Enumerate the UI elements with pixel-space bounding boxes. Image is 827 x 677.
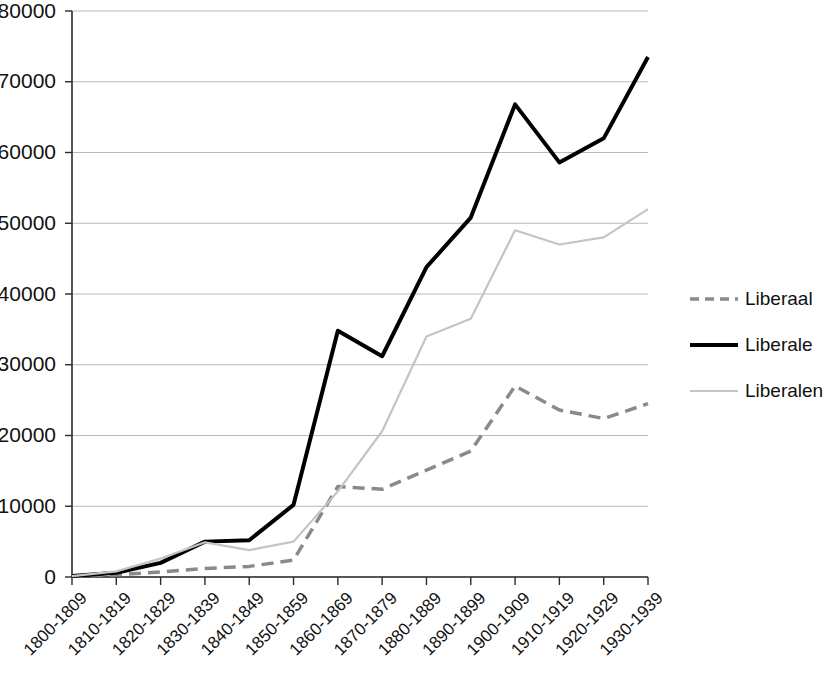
y-axis-tick-label: 70000	[0, 69, 56, 92]
y-axis-tick-label: 60000	[0, 140, 56, 163]
y-axis-tick-label: 10000	[0, 494, 56, 517]
legend-label-liberaal: Liberaal	[745, 288, 813, 309]
x-axis-line	[72, 577, 648, 585]
series-line-liberalen	[72, 209, 648, 576]
y-axis-tick-label: 80000	[0, 0, 56, 22]
y-axis-tick-label: 20000	[0, 423, 56, 446]
gridlines	[65, 11, 648, 577]
legend-label-liberale: Liberale	[745, 334, 813, 355]
series-line-liberale	[72, 57, 648, 576]
chart-container: 0100002000030000400005000060000700008000…	[0, 0, 827, 677]
chart-legend: LiberaalLiberaleLiberalen	[690, 288, 823, 401]
y-axis-tick-label: 50000	[0, 211, 56, 234]
series-line-liberaal	[72, 386, 648, 576]
line-chart: 0100002000030000400005000060000700008000…	[0, 0, 827, 677]
y-axis-tick-label: 30000	[0, 352, 56, 375]
legend-label-liberalen: Liberalen	[745, 380, 823, 401]
data-series-group	[72, 57, 648, 576]
y-axis-tick-label: 40000	[0, 282, 56, 305]
y-axis-tick-label: 0	[44, 565, 56, 588]
x-axis-tick-labels: 1800-18091810-18191820-18291830-18391840…	[20, 588, 667, 659]
y-axis-tick-labels: 0100002000030000400005000060000700008000…	[0, 0, 56, 588]
